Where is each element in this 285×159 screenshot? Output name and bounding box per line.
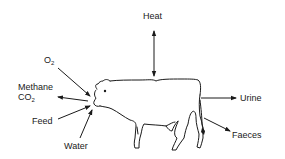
cow-eye bbox=[104, 90, 106, 92]
label-faeces: Faeces bbox=[232, 130, 262, 140]
label-co2: CO2 bbox=[18, 92, 35, 102]
faeces-arrow bbox=[204, 118, 230, 131]
co2-subscript: 2 bbox=[32, 97, 35, 103]
label-heat: Heat bbox=[143, 11, 162, 21]
label-methane: Methane bbox=[18, 82, 53, 92]
label-water: Water bbox=[64, 141, 88, 151]
cow-tail-tuft bbox=[201, 128, 205, 135]
flow-arrows bbox=[58, 31, 236, 138]
water-arrow bbox=[80, 110, 92, 138]
faeces-text: Faeces bbox=[232, 130, 262, 140]
label-o2: O2 bbox=[44, 55, 54, 65]
water-text: Water bbox=[64, 141, 88, 151]
feed-text: Feed bbox=[32, 116, 53, 126]
methane-text: Methane bbox=[18, 82, 53, 92]
o2-subscript: 2 bbox=[51, 60, 54, 66]
methane-co2-arrow bbox=[58, 97, 88, 101]
label-urine: Urine bbox=[240, 93, 262, 103]
urine-text: Urine bbox=[240, 93, 262, 103]
co2-text: CO bbox=[18, 92, 32, 102]
o2-text: O bbox=[44, 55, 51, 65]
o2-arrow bbox=[58, 68, 90, 96]
label-feed: Feed bbox=[32, 116, 53, 126]
cow-outline bbox=[94, 79, 204, 150]
feed-arrow bbox=[58, 106, 90, 119]
heat-text: Heat bbox=[143, 11, 162, 21]
